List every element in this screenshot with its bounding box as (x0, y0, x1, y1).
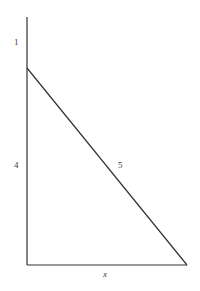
hypotenuse-line (27, 68, 187, 265)
triangle-diagram (0, 0, 200, 291)
segment-length-1-label: 1 (14, 38, 19, 47)
figure-canvas: 1 4 5 x (0, 0, 200, 291)
segment-length-x-label: x (103, 270, 107, 279)
segment-length-4-label: 4 (14, 161, 19, 170)
segment-length-5-label: 5 (118, 161, 123, 170)
